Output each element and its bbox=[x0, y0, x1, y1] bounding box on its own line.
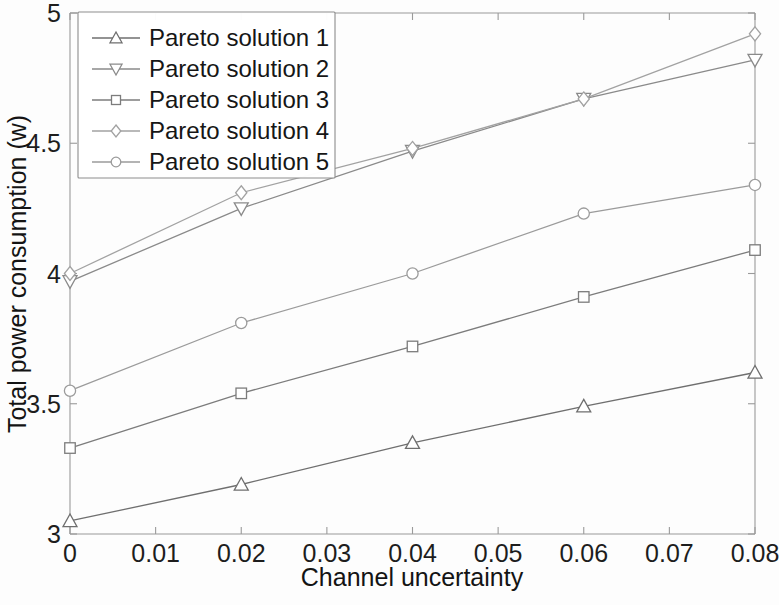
marker-square bbox=[65, 443, 76, 454]
marker-circle bbox=[64, 385, 75, 396]
y-tick-label: 3.5 bbox=[26, 390, 61, 418]
x-tick-label: 0.06 bbox=[559, 539, 608, 567]
x-tick-label: 0 bbox=[63, 539, 77, 567]
legend-label: Pareto solution 4 bbox=[149, 117, 329, 144]
marker-circle bbox=[236, 317, 247, 328]
chart-figure: 00.010.020.030.040.050.060.070.0833.544.… bbox=[0, 0, 779, 605]
x-tick-label: 0.08 bbox=[731, 539, 779, 567]
marker-square bbox=[236, 388, 247, 399]
legend-label: Pareto solution 1 bbox=[149, 24, 329, 51]
series-5 bbox=[64, 179, 760, 396]
line-chart: 00.010.020.030.040.050.060.070.0833.544.… bbox=[0, 0, 779, 605]
series-1 bbox=[63, 365, 762, 526]
marker-circle bbox=[407, 268, 418, 279]
legend-label: Pareto solution 5 bbox=[149, 148, 329, 175]
marker-square bbox=[407, 341, 418, 352]
marker-circle bbox=[749, 179, 760, 190]
x-tick-label: 0.02 bbox=[217, 539, 266, 567]
marker-square bbox=[112, 96, 121, 105]
y-tick-label: 4 bbox=[47, 260, 61, 288]
legend-label: Pareto solution 3 bbox=[149, 86, 329, 113]
x-tick-label: 0.01 bbox=[131, 539, 180, 567]
marker-circle bbox=[111, 157, 121, 167]
legend: Pareto solution 1Pareto solution 2Pareto… bbox=[78, 12, 335, 178]
marker-diamond bbox=[236, 186, 247, 200]
legend-label: Pareto solution 2 bbox=[149, 55, 329, 82]
marker-triangle-up bbox=[748, 365, 762, 378]
y-tick-label: 5 bbox=[47, 0, 61, 27]
x-tick-label: 0.07 bbox=[645, 539, 694, 567]
x-axis-title: Channel uncertainty bbox=[301, 563, 524, 591]
marker-triangle-down bbox=[234, 203, 248, 216]
marker-square bbox=[750, 245, 761, 256]
y-tick-label: 4.5 bbox=[26, 129, 61, 157]
marker-diamond bbox=[407, 141, 418, 155]
marker-circle bbox=[578, 208, 589, 219]
y-tick-label: 3 bbox=[47, 520, 61, 548]
y-axis-title: Total power consumption (w) bbox=[3, 115, 31, 433]
series-line bbox=[70, 185, 755, 391]
marker-square bbox=[579, 292, 590, 303]
marker-diamond bbox=[749, 27, 760, 41]
